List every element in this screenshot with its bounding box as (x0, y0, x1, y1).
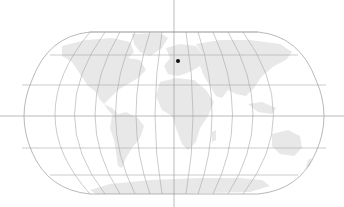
new-zealand (306, 158, 312, 168)
south-america (110, 112, 144, 168)
meridian (155, 32, 162, 194)
land-masses (62, 33, 312, 194)
meridian (136, 32, 150, 194)
africa (156, 78, 214, 150)
australia (272, 130, 302, 156)
europe (164, 44, 204, 76)
greenland (132, 33, 168, 56)
southeast-asia-islands (248, 102, 276, 114)
world-map[interactable] (0, 0, 344, 207)
antarctica (90, 178, 270, 194)
madagascar (212, 130, 216, 142)
north-america (62, 38, 146, 104)
location-marker[interactable] (176, 59, 180, 63)
